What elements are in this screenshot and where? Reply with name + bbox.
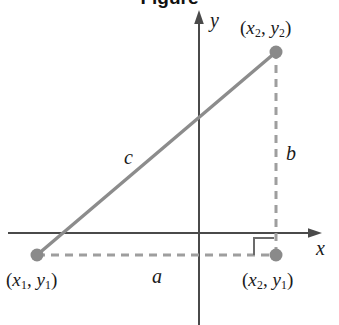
point-label-x2y1: (x2, y1) [242,270,293,289]
side-label-b: b [286,143,296,163]
comma: , [27,269,37,290]
point-x1y1-marker [31,249,44,262]
var-x: x [246,17,254,38]
point-label-x1y1: (x1, y1) [6,270,57,289]
y-axis-label: y [210,10,219,30]
x-axis-label: x [316,238,325,258]
var-x: x [248,269,256,290]
side-label-a: a [152,266,162,286]
var-y: y [36,269,44,290]
figure-container: Figure y x (x2, y2) (x1, y1) (x2 [0,0,339,325]
point-label-x2y2: (x2, y2) [240,18,291,37]
side-label-c: c [124,147,133,167]
point-x2y2-marker [270,46,283,59]
var-y: y [270,17,278,38]
comma: , [263,269,273,290]
paren-close: ) [285,17,291,38]
paren-close: ) [51,269,57,290]
paren-close: ) [287,269,293,290]
point-x2y1-marker [270,249,283,262]
comma: , [261,17,271,38]
var-y: y [272,269,280,290]
var-x: x [12,269,20,290]
y-axis-arrowhead [194,10,204,24]
hypotenuse-segment-c [37,52,276,255]
